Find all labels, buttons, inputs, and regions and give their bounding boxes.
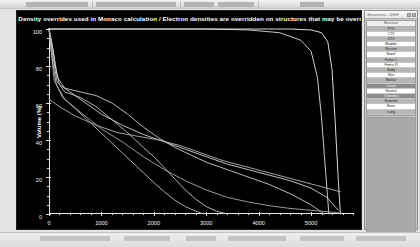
x-minor-tick [353, 213, 354, 215]
plot-axes-area: 010002000300040005000 020406080100 Dose … [49, 29, 353, 214]
y-minor-tick [47, 149, 50, 150]
dvh-application-window: Density overrides used in Monaco calcula… [0, 0, 420, 247]
y-axis-label: Volume (%) [36, 105, 42, 137]
x-tick-label: 5000 [305, 220, 317, 226]
x-tick [206, 212, 207, 216]
y-tick-label: 80 [36, 66, 42, 72]
x-minor-tick [164, 213, 165, 215]
toolbar-group-plan[interactable] [218, 2, 254, 7]
x-tick-label: 1000 [95, 220, 107, 226]
dvh-curve-femur-l [49, 99, 340, 192]
y-minor-tick [47, 159, 50, 160]
structures-panel-title: Structures - DVH [367, 12, 399, 17]
x-minor-tick [122, 213, 123, 215]
status-segment [228, 236, 286, 241]
top-toolbar[interactable] [0, 0, 420, 9]
y-tick-label: 100 [33, 29, 42, 35]
x-minor-tick [290, 213, 291, 215]
toolbar-group-tools[interactable] [184, 2, 214, 7]
x-minor-tick [70, 213, 71, 215]
x-minor-tick [343, 213, 344, 215]
y-minor-tick [47, 85, 50, 86]
y-minor-tick [47, 186, 50, 187]
dvh-curve-body [49, 29, 338, 210]
x-minor-tick [332, 213, 333, 215]
y-minor-tick [47, 168, 50, 169]
x-tick [154, 212, 155, 216]
close-icon[interactable] [412, 13, 416, 17]
x-minor-tick [196, 213, 197, 215]
y-tick [46, 29, 51, 30]
toolbar-separator [258, 1, 259, 8]
structures-panel-titlebar[interactable]: Structures - DVH [365, 11, 417, 19]
structures-panel: Structures - DVH Structure PTVCTVGTVBlad… [364, 10, 418, 230]
status-bar [0, 232, 420, 247]
y-minor-tick [47, 57, 50, 58]
status-segment [356, 236, 406, 241]
structure-row[interactable]: Lung [367, 110, 415, 115]
y-tick [46, 177, 51, 178]
x-minor-tick [91, 213, 92, 215]
toolbar-separator [92, 1, 93, 8]
x-minor-tick [227, 213, 228, 215]
dvh-curve-ctv [49, 29, 329, 214]
window-left-edge [0, 9, 16, 231]
status-segment [40, 236, 110, 241]
x-minor-tick [143, 213, 144, 215]
y-minor-tick [47, 75, 50, 76]
x-tick [259, 212, 260, 216]
toolbar-group-help[interactable] [300, 2, 324, 7]
x-minor-tick [80, 213, 81, 215]
y-tick [46, 103, 51, 104]
x-minor-tick [280, 213, 281, 215]
structures-panel-empty-area [366, 117, 416, 235]
x-minor-tick [269, 213, 270, 215]
dvh-curve-rectum [49, 29, 227, 214]
y-minor-tick [47, 196, 50, 197]
x-tick [311, 212, 312, 216]
toolbar-separator [180, 1, 181, 8]
status-segment [124, 236, 170, 241]
minimize-icon[interactable] [407, 13, 411, 17]
y-minor-tick [47, 131, 50, 132]
toolbar-group-view[interactable] [96, 2, 176, 7]
x-tick-label: 4000 [252, 220, 264, 226]
x-tick [101, 212, 102, 216]
x-minor-tick [59, 213, 60, 215]
toolbar-group-file[interactable] [26, 2, 88, 7]
y-minor-tick [47, 38, 50, 39]
structures-rows-container: PTVCTVGTVBladderRectumBowelFemur LFemur … [367, 27, 415, 115]
structures-panel-window-buttons[interactable] [407, 13, 417, 17]
x-minor-tick [217, 213, 218, 215]
x-tick-label: 0 [47, 220, 50, 226]
x-minor-tick [185, 213, 186, 215]
x-tick-label: 2000 [148, 220, 160, 226]
x-minor-tick [133, 213, 134, 215]
status-segment [186, 236, 216, 241]
x-minor-tick [175, 213, 176, 215]
status-segment [300, 236, 344, 241]
dvh-curve-bladder [49, 29, 324, 214]
y-minor-tick [47, 112, 50, 113]
x-tick-label: 3000 [200, 220, 212, 226]
y-minor-tick [47, 205, 50, 206]
y-tick-label: 20 [36, 177, 42, 183]
dvh-curves [49, 29, 353, 214]
y-minor-tick [47, 122, 50, 123]
y-tick [46, 214, 51, 215]
x-minor-tick [248, 213, 249, 215]
structures-list[interactable]: Structure PTVCTVGTVBladderRectumBowelFem… [366, 20, 416, 116]
y-minor-tick [47, 48, 50, 49]
y-minor-tick [47, 94, 50, 95]
y-tick-label: 0 [39, 214, 42, 220]
x-minor-tick [301, 213, 302, 215]
dvh-curve-bowel [49, 29, 204, 214]
dvh-curve-femur-r [49, 29, 340, 213]
x-minor-tick [238, 213, 239, 215]
y-tick [46, 66, 51, 67]
dvh-plot-window: Density overrides used in Monaco calcula… [16, 10, 362, 230]
y-tick [46, 140, 51, 141]
x-minor-tick [322, 213, 323, 215]
y-tick-label: 40 [36, 140, 42, 146]
x-minor-tick [112, 213, 113, 215]
